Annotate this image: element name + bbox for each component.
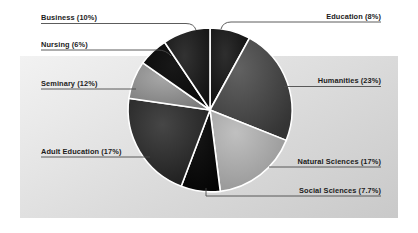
leader-line-business xyxy=(41,24,196,31)
leader-line-education xyxy=(221,22,381,29)
slice-label-education: Education (8%) xyxy=(301,12,381,21)
pie-chart-figure: Business (10%) Nursing (6%) Seminary (12… xyxy=(0,0,418,233)
slice-label-humanities: Humanities (23%) xyxy=(291,76,381,85)
slice-label-natural-sciences: Natural Sciences (17%) xyxy=(271,157,381,166)
slice-label-social-sciences: Social Sciences (7.7%) xyxy=(271,186,381,195)
slice-label-nursing: Nursing (6%) xyxy=(41,40,88,49)
slice-label-seminary: Seminary (12%) xyxy=(41,79,97,88)
slice-label-adult-education: Adult Education (17%) xyxy=(41,147,122,156)
slice-label-business: Business (10%) xyxy=(41,13,97,22)
pie-slices xyxy=(128,28,292,192)
pie-chart-canvas xyxy=(0,0,418,233)
